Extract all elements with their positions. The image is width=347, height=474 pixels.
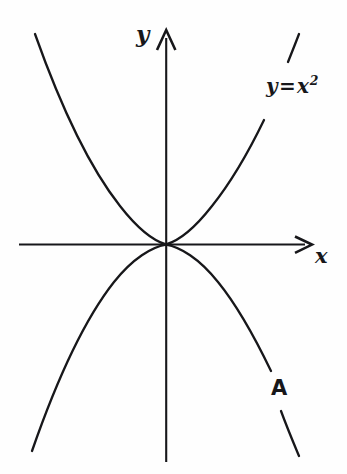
y-axis-label: y [136, 22, 149, 45]
equation-lhs: y [266, 74, 278, 98]
figure-canvas [0, 0, 347, 474]
curve-upward-parabola-left-branch [35, 34, 166, 244]
equation-exponent: 2 [310, 73, 319, 88]
parabola-figure: y x y=x2 A [0, 0, 347, 474]
curve-downward-parabola-left-branch [32, 245, 166, 451]
curve-upward-parabola-right-branch-upper [288, 34, 299, 62]
curve-downward-parabola-right-branch-lower [281, 411, 299, 456]
equation-equals-sign: = [278, 74, 297, 98]
curve-downward-parabola-right-branch-upper [166, 245, 271, 371]
region-a-label: A [271, 378, 287, 399]
x-axis-label: x [315, 245, 328, 266]
curve-upward-parabola-right-branch-lower [166, 120, 264, 244]
equation-base: x [297, 74, 309, 98]
curve-equation-label: y=x2 [266, 76, 319, 96]
